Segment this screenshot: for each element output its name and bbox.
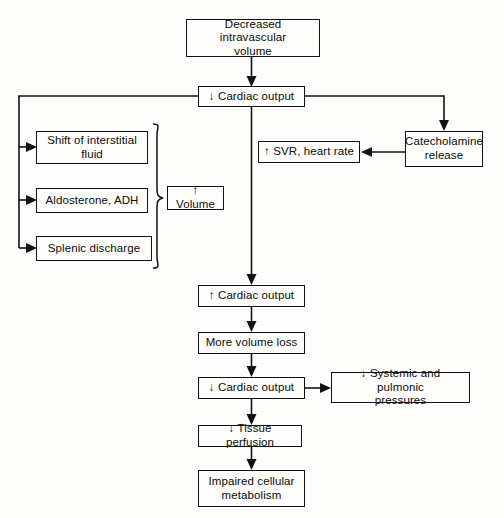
edge-more-volume-loss-to-cardiac-output-down	[247, 354, 257, 377]
flowchart-canvas: Decreased intravascularvolume ↓ Cardiac …	[0, 0, 504, 518]
node-label: Decreased intravascularvolume	[191, 18, 315, 59]
edge-feedback-bus-left	[19, 96, 198, 253]
node-label: ↑ Volume	[172, 184, 219, 211]
edge-cardiac-output-to-catecholamine	[305, 96, 449, 131]
node-label: Catecholaminerelease	[405, 135, 483, 162]
node-label: ↓ Systemic and pulmonicpressures	[336, 367, 465, 408]
node-label: ↓ Cardiac output	[209, 90, 294, 104]
node-label: ↑ Cardiac output	[209, 289, 294, 303]
node-label: Shift of interstitialfluid	[47, 134, 137, 161]
edge-cardiac-output-up-to-more-volume-loss	[247, 307, 257, 332]
node-tissue-perfusion: ↓ Tissue perfusion	[198, 425, 302, 447]
edge-cardiac-output-to-pressures	[305, 383, 331, 393]
node-label: ↓ Tissue perfusion	[203, 422, 297, 449]
grouping-brace	[153, 124, 163, 268]
node-shift-of-interstitial-fluid: Shift of interstitialfluid	[36, 131, 148, 164]
node-label: ↓ Cardiac output	[209, 381, 294, 395]
node-cardiac-output-decreased-second: ↓ Cardiac output	[198, 377, 305, 399]
node-label: Impaired cellularmetabolism	[208, 475, 294, 502]
node-volume-increased: ↑ Volume	[167, 186, 224, 210]
node-label: More volume loss	[206, 336, 298, 350]
node-cardiac-output-increased: ↑ Cardiac output	[198, 285, 305, 307]
node-catecholamine-release: Catecholaminerelease	[405, 131, 483, 167]
node-label: Splenic discharge	[48, 242, 140, 256]
edge-decreased-volume-to-cardiac-output	[247, 57, 257, 87]
edge-tissue-perfusion-to-impaired-metabolism	[247, 447, 257, 470]
edge-catecholamine-to-svr	[361, 147, 405, 157]
node-label: ↑ SVR, heart rate	[264, 145, 354, 159]
node-splenic-discharge: Splenic discharge	[36, 236, 152, 261]
node-more-volume-loss: More volume loss	[198, 332, 305, 354]
node-systemic-pulmonic-pressures: ↓ Systemic and pulmonicpressures	[331, 372, 470, 403]
node-impaired-cellular-metabolism: Impaired cellularmetabolism	[198, 470, 305, 507]
node-svr-heart-rate: ↑ SVR, heart rate	[258, 141, 360, 163]
node-decreased-intravascular-volume: Decreased intravascularvolume	[186, 19, 320, 57]
node-cardiac-output-decreased: ↓ Cardiac output	[198, 86, 305, 107]
edge-cardiac-output-to-tissue-perfusion	[247, 399, 257, 425]
node-aldosterone-adh: Aldosterone, ADH	[36, 188, 148, 213]
edge-cardiac-output-to-cardiac-output-up	[247, 106, 257, 285]
node-label: Aldosterone, ADH	[45, 194, 138, 208]
